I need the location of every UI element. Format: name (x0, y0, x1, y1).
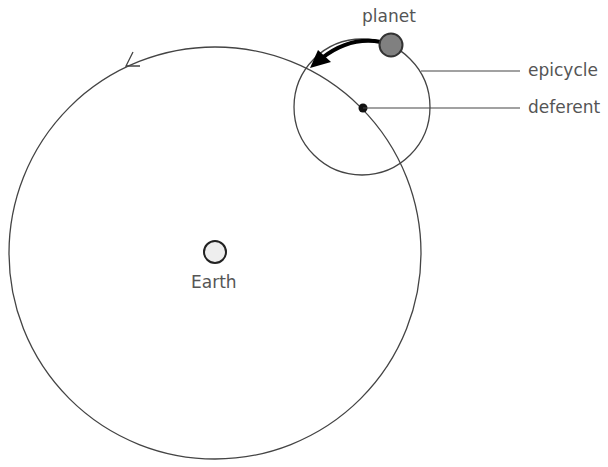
deferent-label: deferent (528, 99, 600, 116)
epicycle-label: epicycle (528, 62, 598, 79)
planet-label: planet (362, 8, 416, 25)
planet-dot (380, 34, 403, 57)
motion-arrow (322, 41, 381, 58)
earth-label: Earth (191, 274, 237, 291)
diagram-canvas (0, 0, 608, 467)
earth-dot (204, 241, 226, 263)
